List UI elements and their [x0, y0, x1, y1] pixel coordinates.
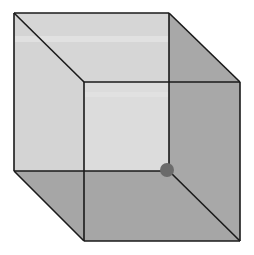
light-streak-2 — [85, 92, 168, 97]
highlighted-vertex-dot — [160, 163, 174, 177]
cube-diagram — [0, 0, 254, 255]
cube-svg — [0, 0, 254, 255]
